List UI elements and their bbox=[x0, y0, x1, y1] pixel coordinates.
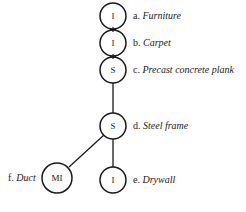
node-e-symbol: I bbox=[103, 175, 123, 185]
node-a-name: Furniture bbox=[142, 10, 181, 21]
node-e-prefix: e. bbox=[133, 174, 140, 185]
node-a-symbol: I bbox=[103, 11, 123, 21]
node-c-prefix: c. bbox=[133, 64, 140, 75]
node-f-label: f. Duct bbox=[8, 172, 36, 184]
edge-d-f bbox=[69, 135, 104, 167]
node-a-label: a. Furniture bbox=[133, 10, 181, 22]
node-b-name: Carpet bbox=[143, 37, 171, 48]
diagram-canvas bbox=[0, 0, 246, 212]
node-d-label: d. Steel frame bbox=[133, 120, 188, 132]
node-d-name: Steel frame bbox=[143, 120, 188, 131]
node-c-symbol: S bbox=[103, 65, 123, 75]
node-f-prefix: f. bbox=[8, 172, 14, 183]
node-f-symbol: MI bbox=[45, 173, 69, 183]
node-c-name: Precast concrete plank bbox=[142, 64, 233, 75]
node-a-prefix: a. bbox=[133, 10, 140, 21]
node-b-label: b. Carpet bbox=[133, 37, 171, 49]
node-c-label: c. Precast concrete plank bbox=[133, 64, 234, 76]
node-f-name: Duct bbox=[16, 172, 35, 183]
node-d-prefix: d. bbox=[133, 120, 141, 131]
node-b-symbol: I bbox=[103, 38, 123, 48]
node-d-symbol: S bbox=[103, 121, 123, 131]
node-e-name: Drywall bbox=[142, 174, 175, 185]
node-b-prefix: b. bbox=[133, 37, 141, 48]
node-e-label: e. Drywall bbox=[133, 174, 175, 186]
